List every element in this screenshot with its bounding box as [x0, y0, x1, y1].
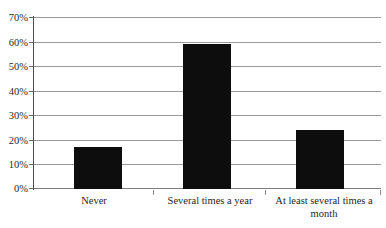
y-axis-label-0: 0%: [0, 183, 28, 194]
bar-never: [74, 147, 122, 189]
y-tick-70: [29, 17, 33, 18]
bar-chart: 70% 60% 50% 40% 30% 20% 10% 0% Never Sev…: [0, 0, 386, 228]
y-axis-label-30: 30%: [0, 110, 28, 121]
y-axis-label-20: 20%: [0, 135, 28, 146]
y-tick-10: [29, 164, 33, 165]
y-tick-50: [29, 66, 33, 67]
x-axis-label-at-least-several-times-a-month: At least several times a month: [267, 195, 381, 220]
y-tick-60: [29, 42, 33, 43]
y-axis-label-50: 50%: [0, 61, 28, 72]
y-axis-label-40: 40%: [0, 86, 28, 97]
y-axis-label-10: 10%: [0, 159, 28, 170]
y-tick-20: [29, 140, 33, 141]
x-axis-label-several-times-a-year: Several times a year: [155, 195, 265, 208]
y-axis-label-70: 70%: [0, 12, 28, 23]
gridline-60: [33, 42, 381, 43]
plot-area: [33, 17, 381, 189]
y-axis-label-60: 60%: [0, 37, 28, 48]
y-tick-40: [29, 91, 33, 92]
x-tick-separator-1: [153, 190, 154, 195]
gridline-70: [33, 17, 381, 18]
x-tick-separator-2: [265, 190, 266, 195]
y-axis-line: [33, 16, 34, 190]
x-axis-label-never: Never: [36, 195, 152, 208]
y-tick-30: [29, 115, 33, 116]
bar-at-least-several-times-a-month: [296, 130, 344, 189]
bar-several-times-a-year: [183, 44, 231, 189]
y-tick-0: [29, 188, 33, 189]
